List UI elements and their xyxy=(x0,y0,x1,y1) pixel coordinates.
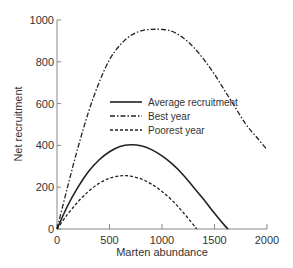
x-tick-label: 2000 xyxy=(255,234,279,246)
legend-label: Average recruitment xyxy=(148,97,238,108)
y-tick-label: 800 xyxy=(36,56,54,68)
recruitment-chart: 020040060080010000500100015002000 Averag… xyxy=(0,0,293,268)
legend-label: Best year xyxy=(148,111,191,122)
y-tick-label: 200 xyxy=(36,181,54,193)
x-tick-label: 1500 xyxy=(202,234,226,246)
legend-label: Poorest year xyxy=(148,125,205,136)
x-tick-label: 1000 xyxy=(150,234,174,246)
y-tick-label: 400 xyxy=(36,139,54,151)
x-axis-label: Marten abundance xyxy=(116,246,208,258)
chart-canvas: 020040060080010000500100015002000 Averag… xyxy=(0,0,293,268)
y-tick-label: 600 xyxy=(36,98,54,110)
series-poorest-year xyxy=(57,176,197,229)
x-tick-label: 0 xyxy=(54,234,60,246)
y-tick-label: 1000 xyxy=(30,14,54,26)
y-axis-label: Net recruitment xyxy=(12,86,24,161)
x-tick-label: 500 xyxy=(100,234,118,246)
series-average-recruitment xyxy=(57,145,228,229)
legend: Average recruitmentBest yearPoorest year xyxy=(110,97,238,136)
